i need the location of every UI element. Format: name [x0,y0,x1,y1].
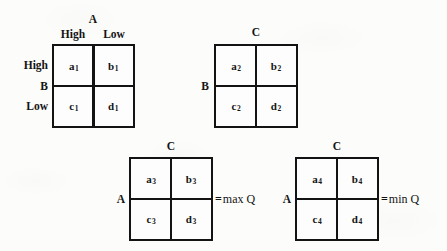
matrix-4-cell-d: d4 [337,199,377,239]
matrix-4-cell-a-letter: a [312,173,318,185]
matrix-4-column-axis-label: C [333,141,341,153]
figure-canvas: A High Low High B Low a1 b1 c1 d1 C B [0,0,447,251]
matrix-4-result: =min Q [381,193,419,205]
matrix-4-grid: a4 b4 c4 d4 [295,157,379,241]
matrix-4-cell-b: b4 [337,159,377,199]
matrix-4-cell-d-subscript: 4 [359,217,363,226]
matrix-4-cell-a-subscript: 4 [318,177,322,186]
matrix-4-equals-sign: = [381,192,388,206]
matrix-4-row-axis-label: A [283,194,291,206]
matrix-4-cell-d-letter: d [352,213,358,225]
matrix-4-cell-c: c4 [297,199,337,239]
matrix-4-cell-b-subscript: 4 [359,177,363,186]
matrix-4-result-label: min Q [389,192,419,206]
matrix-4-cell-c-subscript: 4 [318,217,322,226]
matrix-4-cell-a: a4 [297,159,337,199]
matrix-4: C A a4 b4 c4 d4 =min Q [0,0,447,251]
matrix-4-cell-b-letter: b [352,173,358,185]
matrix-4-cell-c-letter: c [312,213,317,225]
